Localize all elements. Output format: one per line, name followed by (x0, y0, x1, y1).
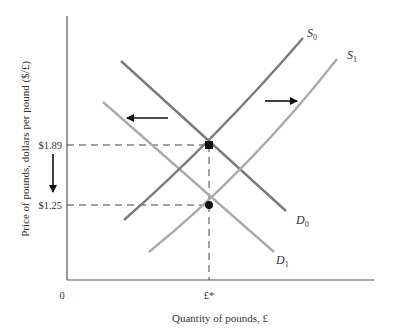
x-axis-title: Quantity of pounds, £ (172, 312, 268, 324)
y-tick-1-25: $1.25 (38, 200, 62, 211)
supply-curve-s1 (149, 59, 337, 252)
chart: S0 S1 D0 D1 $1.89 $1.25 0 £* Quantity of… (0, 0, 397, 333)
equilibrium-marker-new (205, 201, 213, 209)
x-tick-q-star: £* (204, 290, 215, 301)
label-s1: S1 (347, 48, 357, 64)
label-s0: S0 (307, 26, 317, 42)
y-axis-title: Price of pounds, dollars per pound ($/£) (19, 61, 32, 237)
y-tick-1-89: $1.89 (38, 140, 62, 151)
label-d0: D0 (295, 213, 309, 229)
equilibrium-marker-initial (205, 141, 213, 149)
label-d1: D1 (275, 253, 289, 269)
origin-label: 0 (59, 290, 64, 301)
supply-curve-s0 (124, 38, 303, 220)
